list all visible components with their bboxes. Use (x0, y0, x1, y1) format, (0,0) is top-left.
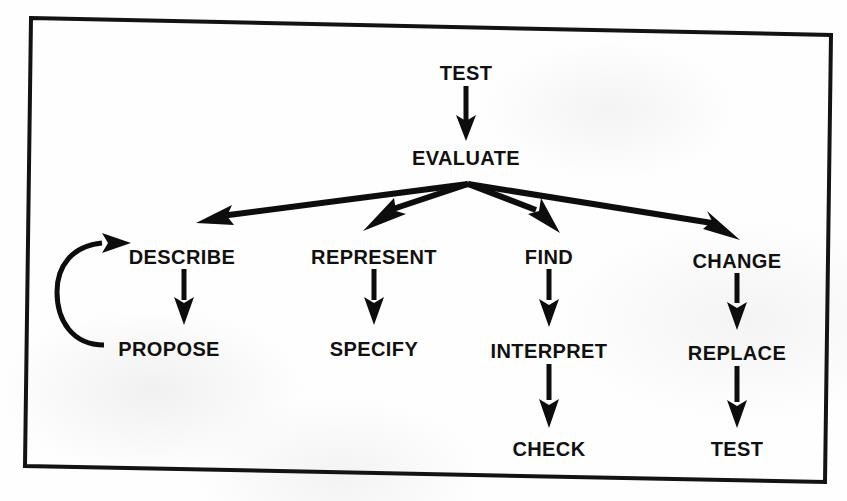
node-find: FIND (525, 246, 573, 268)
node-specify: SPECIFY (330, 338, 419, 360)
edge-describe-to-propose (174, 269, 194, 325)
edge-represent-to-specify (364, 269, 384, 325)
node-replace: REPLACE (688, 342, 786, 364)
edge-evaluate-to-describe (196, 184, 468, 225)
edge-change-to-replace (727, 273, 747, 330)
edge-propose-to-describe-feedback (57, 233, 131, 345)
node-describe: DESCRIBE (129, 246, 236, 268)
node-propose: PROPOSE (118, 338, 220, 360)
nodes-layer: TEST EVALUATE DESCRIBE REPRESENT FIND CH… (118, 62, 786, 460)
node-evaluate: EVALUATE (412, 147, 520, 169)
node-test-top: TEST (440, 62, 493, 84)
node-test-bottom: TEST (711, 438, 764, 460)
edge-replace-to-test (727, 366, 747, 428)
flowchart-diagram: TEST EVALUATE DESCRIBE REPRESENT FIND CH… (0, 0, 847, 501)
edge-evaluate-to-change (468, 184, 740, 240)
node-change: CHANGE (692, 250, 781, 272)
node-interpret: INTERPRET (491, 340, 608, 362)
edge-test-to-evaluate (456, 86, 476, 141)
edge-interpret-to-check (539, 364, 559, 428)
edge-find-to-interpret (539, 269, 559, 327)
node-represent: REPRESENT (311, 246, 437, 268)
node-check: CHECK (512, 438, 585, 460)
figure-page: TEST EVALUATE DESCRIBE REPRESENT FIND CH… (0, 0, 847, 501)
